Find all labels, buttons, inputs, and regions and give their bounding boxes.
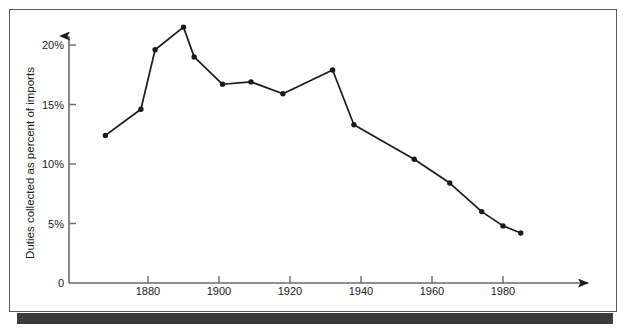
x-axis-ticks: 1880 1900 1920 1940 1960 1980 <box>136 276 515 297</box>
x-tick-label: 1880 <box>136 285 160 297</box>
x-tick-label: 1920 <box>278 285 302 297</box>
x-tick-label: 1980 <box>491 285 515 297</box>
y-tick-label: 10% <box>42 158 64 170</box>
data-point <box>500 223 505 228</box>
line-chart: 20% 15% 10% 5% 0 1880 1900 1920 <box>0 0 630 331</box>
y-axis-title: Duties collected as percent of imports <box>24 67 36 259</box>
data-point <box>518 230 523 235</box>
data-point <box>138 107 143 112</box>
data-point <box>248 79 253 84</box>
data-point <box>191 54 196 59</box>
y-tick-label: 20% <box>42 39 64 51</box>
data-point <box>152 47 157 52</box>
series-line <box>105 27 520 233</box>
x-tick-label: 1940 <box>349 285 373 297</box>
data-point <box>351 122 356 127</box>
y-axis-ticks: 20% 15% 10% 5% 0 <box>42 39 76 289</box>
x-tick-label: 1960 <box>420 285 444 297</box>
y-tick-label: 0 <box>58 277 64 289</box>
data-series <box>103 24 524 235</box>
series-markers <box>103 24 524 235</box>
data-point <box>181 24 186 29</box>
data-point <box>330 67 335 72</box>
data-point <box>280 91 285 96</box>
y-tick-label: 5% <box>48 218 64 230</box>
data-point <box>412 157 417 162</box>
x-tick-label: 1900 <box>207 285 231 297</box>
chart-figure: 20% 15% 10% 5% 0 1880 1900 1920 <box>0 0 630 331</box>
data-point <box>220 82 225 87</box>
data-point <box>103 133 108 138</box>
y-tick-label: 15% <box>42 99 64 111</box>
axes <box>69 36 588 283</box>
data-point <box>447 180 452 185</box>
data-point <box>479 209 484 214</box>
